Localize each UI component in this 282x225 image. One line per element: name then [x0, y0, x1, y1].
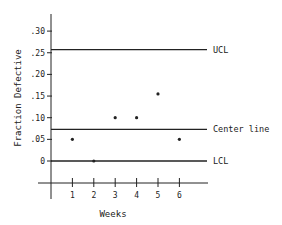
y-tick-label: .15: [31, 92, 46, 101]
y-tick-label: .25: [31, 49, 46, 58]
y-tick-label: .10: [31, 114, 46, 123]
x-tick-label: 6: [177, 191, 182, 200]
x-tick-label: 2: [91, 191, 96, 200]
y-tick-label: .30: [31, 27, 46, 36]
axes: .30.25.20.15.10.050123456: [31, 14, 208, 200]
data-point: [178, 138, 181, 141]
x-tick-label: 5: [156, 191, 161, 200]
y-tick-label: 0: [40, 157, 45, 166]
center-line-label: Center line: [213, 124, 269, 134]
y-axis-label: Fraction Defective: [13, 49, 23, 147]
lcl-label: LCL: [213, 156, 228, 166]
ucl-label: UCL: [213, 45, 228, 55]
data-points: [71, 92, 181, 162]
data-point: [92, 159, 95, 162]
y-tick-label: .20: [31, 70, 46, 79]
y-tick-label: .05: [31, 135, 46, 144]
reference-lines: UCLCenter lineLCL: [51, 45, 269, 166]
data-point: [156, 92, 159, 95]
data-point: [135, 116, 138, 119]
x-tick-label: 1: [70, 191, 75, 200]
x-tick-label: 4: [134, 191, 139, 200]
x-axis-label: Weeks: [99, 209, 126, 219]
data-point: [114, 116, 117, 119]
x-tick-label: 3: [113, 191, 118, 200]
data-point: [71, 138, 74, 141]
control-chart: .30.25.20.15.10.050123456 UCLCenter line…: [0, 0, 282, 225]
